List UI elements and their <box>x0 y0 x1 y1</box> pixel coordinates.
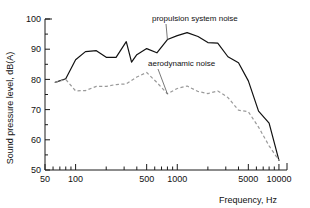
x-axis-minor-ticks <box>53 167 274 171</box>
y-tick-label: 90 <box>31 44 41 54</box>
y-tick-label: 80 <box>31 75 41 85</box>
y-axis-title: Sound pressure level, dB(A) <box>5 52 15 165</box>
x-tick-label: 10000 <box>266 174 291 184</box>
series-aerodynamic-noise <box>55 72 279 160</box>
y-tick-label: 70 <box>31 105 41 115</box>
x-tick-label: 1000 <box>167 174 187 184</box>
y-tick-label: 100 <box>26 14 41 24</box>
x-tick-label: 50 <box>40 174 50 184</box>
x-tick-label: 500 <box>139 174 154 184</box>
aerodynamic-label-leader-line <box>158 69 167 94</box>
y-axis-tick-labels: 5060708090100 <box>26 14 41 175</box>
x-axis-title: Frequency, Hz <box>219 195 277 205</box>
annotation-aerodynamic-noise: aerodynamic noise <box>148 59 216 68</box>
sound-pressure-level-chart: 5060708090100 501005001000500010000 Soun… <box>0 0 310 208</box>
series-propulsion-system-noise <box>55 33 279 161</box>
x-axis-tick-labels: 501005001000500010000 <box>40 174 291 184</box>
annotation-propulsion-system-noise: propulsion system noise <box>152 14 238 23</box>
x-tick-label: 100 <box>68 174 83 184</box>
chart-canvas: 5060708090100 501005001000500010000 Soun… <box>0 0 310 208</box>
y-tick-label: 60 <box>31 135 41 145</box>
x-tick-label: 5000 <box>238 174 258 184</box>
propulsion-label-leader-line <box>166 24 167 40</box>
series-group <box>55 33 279 161</box>
